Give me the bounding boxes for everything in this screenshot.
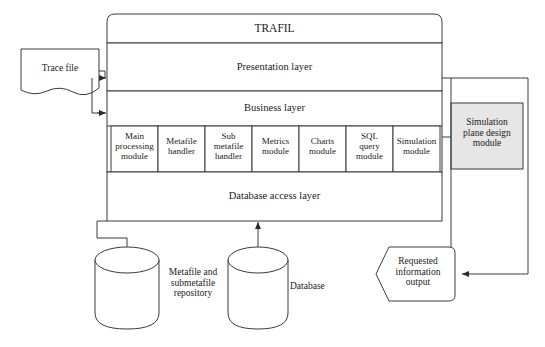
presentation-layer-box: [107, 43, 442, 91]
database-access-layer-box: [107, 172, 442, 221]
main-processing-module-box: [111, 126, 158, 172]
trace-file-connector-stub: [99, 71, 105, 78]
simulation-plane-design-module-box: [451, 103, 523, 169]
simulation-module-box: [393, 126, 440, 172]
metrics-module-box: [252, 126, 299, 172]
metafile-repository-cylinder-top: [95, 247, 159, 273]
database-cylinder-top: [228, 247, 288, 273]
dal-to-metafile-repository-line: [97, 221, 127, 247]
trafil-title-box: [107, 14, 442, 43]
sql-query-module-box: [346, 126, 393, 172]
trace-file-shape: [21, 49, 99, 95]
diagram-shapes: [0, 0, 545, 347]
charts-module-box: [299, 126, 346, 172]
metafile-handler-module-box: [158, 126, 205, 172]
diagram-canvas: TRAFIL Presentation layer Business layer…: [0, 0, 545, 347]
sub-metafile-handler-module-box: [205, 126, 252, 172]
requested-information-output-shape: [376, 247, 455, 301]
